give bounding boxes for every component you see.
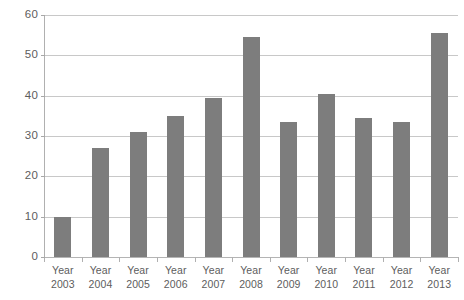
x-label-line2: 2003 — [44, 277, 82, 291]
bar-2011 — [355, 118, 372, 257]
x-tick-mark — [458, 257, 459, 262]
bar-2003 — [54, 217, 71, 257]
x-tick-label-2005: Year2005 — [119, 263, 157, 291]
x-label-line2: 2004 — [82, 277, 120, 291]
x-label-line1: Year — [82, 263, 120, 277]
x-tick-mark — [345, 257, 346, 262]
y-axis-tick-labels: 0102030405060 — [0, 15, 38, 257]
x-axis-ticks — [44, 257, 458, 262]
x-tick-mark — [383, 257, 384, 262]
y-tick-label-60: 60 — [25, 9, 38, 21]
bar-2007 — [205, 98, 222, 257]
y-tick-label-20: 20 — [25, 171, 38, 183]
x-tick-label-2011: Year2011 — [345, 263, 383, 291]
x-label-line1: Year — [157, 263, 195, 277]
bar-2006 — [167, 116, 184, 257]
x-tick-mark — [195, 257, 196, 262]
x-label-line2: 2010 — [307, 277, 345, 291]
y-tick-mark-60 — [41, 15, 45, 16]
x-tick-mark — [270, 257, 271, 262]
x-label-line1: Year — [44, 263, 82, 277]
x-label-line1: Year — [383, 263, 421, 277]
x-label-line2: 2007 — [195, 277, 233, 291]
x-label-line2: 2009 — [270, 277, 308, 291]
y-tick-mark-10 — [41, 217, 45, 218]
bar-slot — [420, 15, 458, 257]
x-tick-label-2003: Year2003 — [44, 263, 82, 291]
bar-slot — [345, 15, 383, 257]
bar-2013 — [431, 33, 448, 257]
x-label-line1: Year — [232, 263, 270, 277]
x-label-line1: Year — [420, 263, 458, 277]
y-tick-mark-50 — [41, 55, 45, 56]
bar-slot — [44, 15, 82, 257]
y-tick-label-40: 40 — [25, 90, 38, 102]
x-tick-mark — [307, 257, 308, 262]
bar-slot — [307, 15, 345, 257]
bar-2012 — [393, 122, 410, 257]
x-tick-label-2012: Year2012 — [383, 263, 421, 291]
x-tick-label-2007: Year2007 — [195, 263, 233, 291]
y-tick-mark-0 — [41, 257, 45, 258]
x-tick-label-2006: Year2006 — [157, 263, 195, 291]
bar-slot — [82, 15, 120, 257]
bar-2009 — [280, 122, 297, 257]
bar-2008 — [243, 37, 260, 257]
x-tick-label-2013: Year2013 — [420, 263, 458, 291]
x-label-line2: 2012 — [383, 277, 421, 291]
bar-slot — [195, 15, 233, 257]
y-tick-mark-30 — [41, 136, 45, 137]
x-tick-label-2010: Year2010 — [307, 263, 345, 291]
y-tick-mark-40 — [41, 96, 45, 97]
bar-2005 — [130, 132, 147, 257]
x-label-line2: 2013 — [420, 277, 458, 291]
x-label-line2: 2008 — [232, 277, 270, 291]
x-label-line1: Year — [195, 263, 233, 277]
x-tick-mark — [420, 257, 421, 262]
x-label-line2: 2005 — [119, 277, 157, 291]
y-tick-label-50: 50 — [25, 50, 38, 62]
bar-slot — [232, 15, 270, 257]
y-tick-mark-20 — [41, 176, 45, 177]
bar-chart: 0102030405060 Year2003Year2004Year2005Ye… — [0, 0, 464, 300]
bar-2004 — [92, 148, 109, 257]
x-label-line2: 2006 — [157, 277, 195, 291]
bar-slot — [119, 15, 157, 257]
x-tick-mark — [82, 257, 83, 262]
x-tick-label-2009: Year2009 — [270, 263, 308, 291]
x-label-line1: Year — [307, 263, 345, 277]
bar-slot — [157, 15, 195, 257]
x-axis-tick-labels: Year2003Year2004Year2005Year2006Year2007… — [44, 263, 458, 291]
y-tick-label-0: 0 — [31, 251, 38, 263]
y-tick-label-10: 10 — [25, 211, 38, 223]
bar-slot — [383, 15, 421, 257]
x-label-line1: Year — [270, 263, 308, 277]
x-label-line1: Year — [345, 263, 383, 277]
x-label-line2: 2011 — [345, 277, 383, 291]
bar-slot — [270, 15, 308, 257]
x-label-line1: Year — [119, 263, 157, 277]
bar-2010 — [318, 94, 335, 257]
y-tick-label-30: 30 — [25, 130, 38, 142]
x-tick-mark — [119, 257, 120, 262]
x-tick-label-2008: Year2008 — [232, 263, 270, 291]
x-tick-mark — [157, 257, 158, 262]
x-tick-label-2004: Year2004 — [82, 263, 120, 291]
bar-series — [44, 15, 458, 257]
x-tick-mark — [232, 257, 233, 262]
